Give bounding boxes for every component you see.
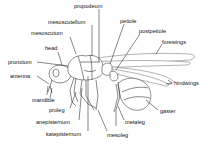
label-mandible: mandible xyxy=(32,97,55,103)
label-metaleg: metaleg xyxy=(125,119,145,125)
mesosoma-shape xyxy=(68,55,104,80)
insect-illustration xyxy=(0,0,207,144)
label-antenna: antenna xyxy=(10,73,30,79)
label-petiole: petiole xyxy=(120,18,136,24)
label-pronotum: pronotum xyxy=(8,59,32,65)
label-proleg: proleg xyxy=(49,107,65,113)
head-shape xyxy=(49,65,71,83)
label-mesoscutum: mesoscutum xyxy=(31,30,63,36)
label-forewings: forewings xyxy=(162,39,186,45)
insect-anatomy-diagram: propodeum mesoscutellum mesoscutum petio… xyxy=(0,0,207,144)
label-propodeum: propodeum xyxy=(74,3,102,9)
label-hindwings: hindwings xyxy=(174,80,199,86)
label-postpetiole: postpetiole xyxy=(139,28,166,34)
label-anepisternum: anepisternum xyxy=(36,119,70,125)
label-head: head xyxy=(45,45,57,51)
label-mesoleg: mesoleg xyxy=(107,132,128,138)
label-mesoscutellum: mesoscutellum xyxy=(48,19,85,25)
label-katepisternum: katepisternum xyxy=(46,131,81,137)
label-gaster: gaster xyxy=(160,108,176,114)
legs-shape xyxy=(70,78,120,126)
gaster-shape xyxy=(118,78,151,110)
